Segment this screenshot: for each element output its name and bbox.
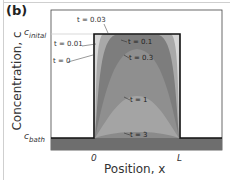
y-tick-c-initial: cinital [24,27,46,40]
y-tick-c-bath: cbath [24,131,45,144]
label-t-0.03: t = 0.03 [77,16,106,24]
bath-band [51,138,222,150]
x-tick-L: L [177,153,182,163]
label-t-1: t = 1 [130,96,148,104]
x-tick-0: 0 [91,153,97,163]
x-axis-label: Position, x [104,162,165,176]
label-t-0.1: t = 0.1 [128,38,152,46]
label-t-0: t = 0 [53,57,71,65]
label-t-3: t = 3 [130,131,148,139]
label-t-0.3: t = 0.3 [129,54,153,62]
label-t-0.01: t = 0.01 [54,40,83,48]
y-axis-label: Concentration, c [10,26,24,136]
